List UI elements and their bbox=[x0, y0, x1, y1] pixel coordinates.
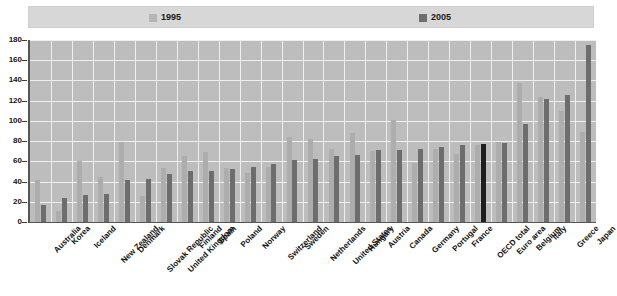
gridline-vertical bbox=[323, 40, 324, 222]
bar-1995 bbox=[140, 196, 145, 222]
y-tick-mark bbox=[22, 60, 27, 61]
bar-1995 bbox=[370, 151, 375, 222]
y-tick-label: 140 bbox=[9, 76, 22, 84]
bar-2005 bbox=[544, 99, 549, 222]
x-axis: AustraliaKoreaIcelandNew ZealandDenmarkS… bbox=[28, 224, 594, 296]
y-tick-label: 120 bbox=[9, 97, 22, 105]
bar-2005 bbox=[355, 155, 360, 222]
gridline-vertical bbox=[198, 40, 199, 222]
gridline-horizontal bbox=[30, 101, 596, 102]
bar-1995 bbox=[538, 97, 543, 222]
bar-1995 bbox=[245, 173, 250, 222]
x-tick-label: Poland bbox=[239, 224, 264, 249]
gridline-vertical bbox=[219, 40, 220, 222]
gridline-vertical bbox=[51, 40, 52, 222]
gridline-vertical bbox=[261, 40, 262, 222]
gridline-vertical bbox=[533, 40, 534, 222]
gridline-vertical bbox=[575, 40, 576, 222]
y-tick-label: 40 bbox=[13, 178, 22, 186]
bar-1995 bbox=[287, 137, 292, 222]
bar-2005 bbox=[586, 45, 591, 222]
gridline-vertical bbox=[365, 40, 366, 222]
x-tick-label: Norway bbox=[261, 224, 288, 251]
bar-1995 bbox=[266, 167, 271, 222]
gridline-vertical bbox=[282, 40, 283, 222]
y-tick-mark bbox=[22, 161, 27, 162]
bar-1995 bbox=[433, 149, 438, 222]
bar-1995 bbox=[308, 139, 313, 222]
bar-1995 bbox=[517, 83, 522, 222]
gridline-vertical bbox=[386, 40, 387, 222]
gridline-vertical bbox=[512, 40, 513, 222]
y-tick-mark bbox=[22, 202, 27, 203]
bar-2005 bbox=[313, 159, 318, 222]
gridline-vertical bbox=[344, 40, 345, 222]
gridline-vertical bbox=[72, 40, 73, 222]
gridline-vertical bbox=[135, 40, 136, 222]
gridline-horizontal bbox=[30, 40, 596, 41]
bar-2005 bbox=[62, 198, 67, 222]
bar-1995 bbox=[224, 168, 229, 222]
x-tick-label: Greece bbox=[574, 224, 600, 250]
gridline-vertical bbox=[470, 40, 471, 222]
bar-2005 bbox=[251, 167, 256, 222]
bar-1995 bbox=[329, 149, 334, 222]
bar-1995 bbox=[496, 142, 501, 222]
bar-1995 bbox=[98, 177, 103, 223]
gridline-vertical bbox=[407, 40, 408, 222]
bar-1995 bbox=[182, 156, 187, 222]
y-tick-mark bbox=[22, 182, 27, 183]
bar-1995 bbox=[412, 163, 417, 222]
bar-2005 bbox=[439, 147, 444, 222]
gridline-vertical bbox=[428, 40, 429, 222]
legend-entry-2005[interactable]: 2005 bbox=[419, 11, 451, 24]
legend-swatch-2005-icon bbox=[419, 14, 427, 22]
legend-label-2005: 2005 bbox=[431, 13, 451, 22]
y-tick-mark bbox=[22, 101, 27, 102]
bar-2005 bbox=[104, 194, 109, 222]
bar-1995 bbox=[350, 133, 355, 222]
legend-swatch-1995-icon bbox=[149, 14, 157, 22]
bar-2005 bbox=[397, 150, 402, 222]
chart-legend: 1995 2005 bbox=[28, 6, 594, 28]
bar-2005 bbox=[565, 95, 570, 222]
bar-2005 bbox=[271, 164, 276, 222]
bar-2005 bbox=[83, 195, 88, 222]
bar-1995 bbox=[580, 132, 585, 222]
bar-1995 bbox=[77, 161, 82, 222]
y-axis: 020406080100120140160180 bbox=[0, 36, 26, 226]
legend-label-1995: 1995 bbox=[161, 13, 181, 22]
bar-2005 bbox=[334, 156, 339, 222]
gridline-vertical bbox=[114, 40, 115, 222]
gridline-vertical bbox=[303, 40, 304, 222]
y-tick-mark bbox=[22, 121, 27, 122]
gridline-vertical bbox=[554, 40, 555, 222]
bar-1995 bbox=[56, 211, 61, 222]
bar-2005 bbox=[376, 150, 381, 222]
bar-2005 bbox=[292, 160, 297, 222]
gridline-horizontal bbox=[30, 121, 596, 122]
bar-1995 bbox=[391, 120, 396, 222]
gridline-vertical bbox=[93, 40, 94, 222]
bar-2005 bbox=[460, 145, 465, 222]
legend-entry-1995[interactable]: 1995 bbox=[149, 11, 181, 24]
bar-2005 bbox=[502, 143, 507, 222]
y-tick-label: 100 bbox=[9, 117, 22, 125]
bar-1995 bbox=[161, 168, 166, 222]
y-tick-label: 60 bbox=[13, 157, 22, 165]
y-tick-label: 80 bbox=[13, 137, 22, 145]
bar-2005 bbox=[209, 171, 214, 222]
y-tick-label: 180 bbox=[9, 36, 22, 44]
y-tick-mark bbox=[22, 40, 27, 41]
bar-2005-highlighted bbox=[481, 144, 486, 222]
y-tick-mark bbox=[22, 80, 27, 81]
bar-2005 bbox=[167, 174, 172, 222]
bar-2005 bbox=[146, 179, 151, 222]
gridline-horizontal bbox=[30, 80, 596, 81]
bar-1995 bbox=[454, 154, 459, 222]
gridline-vertical bbox=[240, 40, 241, 222]
gridline-horizontal bbox=[30, 141, 596, 142]
bar-2005 bbox=[523, 124, 528, 222]
bar-1995 bbox=[559, 111, 564, 222]
plot-area bbox=[28, 40, 596, 223]
